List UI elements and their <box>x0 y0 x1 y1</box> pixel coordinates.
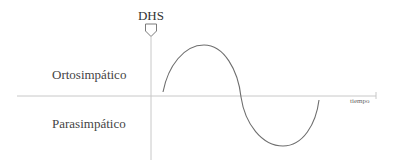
diagram-canvas <box>0 0 396 168</box>
dhs-label: DHS <box>136 8 166 24</box>
ortosimpatico-label: Ortosimpático <box>52 67 126 83</box>
parasimpatico-label: Parasimpático <box>52 116 126 132</box>
time-axis-label: tiempo <box>350 97 369 105</box>
dhs-marker-icon <box>146 24 157 37</box>
